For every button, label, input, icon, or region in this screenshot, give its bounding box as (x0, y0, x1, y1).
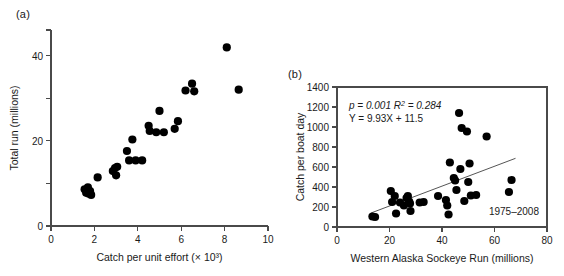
data-point (420, 198, 428, 206)
data-point (434, 192, 442, 200)
data-point (451, 176, 459, 184)
y-tick-label: 400 (312, 182, 329, 193)
panel-a-points (81, 43, 243, 199)
period-annotation: 1975–2008 (489, 206, 539, 217)
data-point (505, 188, 513, 196)
panel-b-plot: 0204060800200400600800100012001400p = 0.… (282, 0, 564, 276)
data-point (464, 178, 472, 186)
x-axis-title: Catch per unit effort (× 10³) (96, 251, 222, 263)
x-tick-label: 6 (178, 234, 184, 245)
data-point (444, 210, 452, 218)
data-point (406, 207, 414, 215)
x-axis-title: Western Alaska Sockeye Run (millions) (350, 252, 533, 264)
y-tick-label: 0 (37, 221, 43, 232)
y-tick-label: 1200 (307, 102, 330, 113)
data-point (392, 209, 400, 217)
y-tick-label: 1000 (307, 122, 330, 133)
x-tick-label: 0 (48, 234, 54, 245)
y-axis-title: Catch per boat day (294, 112, 306, 201)
x-tick-label: 60 (489, 235, 501, 246)
x-tick-label: 2 (92, 234, 98, 245)
data-point (456, 165, 464, 173)
data-point (483, 132, 491, 140)
panel-a: (a) 024681002040Catch per unit effort (×… (0, 0, 282, 276)
y-tick-label: 200 (312, 202, 329, 213)
y-tick-label: 0 (323, 222, 329, 233)
panel-b: (b) 0204060800200400600800100012001400p … (282, 0, 564, 276)
data-point (465, 159, 473, 167)
data-point (223, 43, 231, 51)
panel-b-points (368, 109, 515, 221)
data-point (452, 186, 460, 194)
panel-a-plot: 024681002040Catch per unit effort (× 10³… (0, 0, 282, 276)
y-tick-label: 600 (312, 162, 329, 173)
data-point (460, 197, 468, 205)
data-point (112, 171, 120, 179)
data-point (160, 128, 168, 136)
y-tick-label: 1400 (307, 82, 330, 93)
data-point (155, 107, 163, 115)
data-point (391, 192, 399, 200)
y-tick-label: 40 (32, 51, 44, 62)
data-point (152, 128, 160, 136)
data-point (455, 109, 463, 117)
data-point (371, 213, 379, 221)
data-point (87, 191, 95, 199)
data-point (190, 87, 198, 95)
data-point (171, 125, 179, 133)
data-point (446, 158, 454, 166)
stats-annotation-line1: p = 0.001 R2 = 0.284 (348, 100, 442, 112)
data-point (94, 173, 102, 181)
x-tick-label: 4 (135, 234, 141, 245)
data-point (181, 86, 189, 94)
x-tick-label: 0 (334, 235, 340, 246)
data-point (128, 135, 136, 143)
data-point (235, 86, 243, 94)
data-point (443, 201, 451, 209)
equation-annotation: Y = 9.93X + 11.5 (349, 113, 424, 124)
y-tick-label: 800 (312, 142, 329, 153)
x-tick-label: 40 (436, 235, 448, 246)
data-point (406, 199, 414, 207)
x-tick-label: 10 (262, 234, 274, 245)
data-point (507, 176, 515, 184)
data-point (138, 156, 146, 164)
data-point (472, 191, 480, 199)
data-point (123, 147, 131, 155)
data-point (113, 163, 121, 171)
y-tick-label: 20 (32, 136, 44, 147)
data-point (463, 127, 471, 135)
data-point (174, 117, 182, 125)
x-tick-label: 20 (384, 235, 396, 246)
y-axis-title: Total run (millions) (8, 85, 20, 170)
panel-a-axes (51, 30, 268, 226)
x-tick-label: 8 (222, 234, 228, 245)
figure-container: (a) 024681002040Catch per unit effort (×… (0, 0, 564, 276)
data-point (188, 80, 196, 88)
x-tick-label: 80 (541, 235, 553, 246)
